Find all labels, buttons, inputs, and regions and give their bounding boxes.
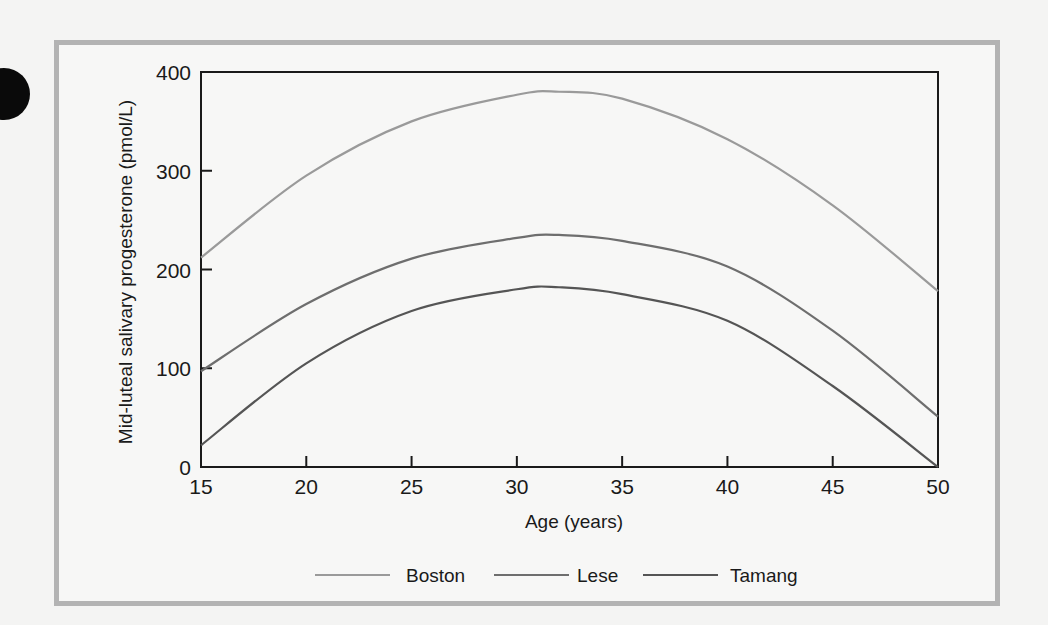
x-tick-label: 45 (821, 475, 844, 498)
series-line-boston (201, 91, 938, 291)
series-line-tamang (201, 286, 938, 467)
x-tick-label: 20 (295, 475, 318, 498)
x-axis: 1520253035404550 (189, 456, 949, 498)
series-lines (201, 91, 938, 467)
legend-label-lese: Lese (577, 565, 618, 586)
y-axis-title: Mid-luteal salivary progesterone (pmol/L… (115, 100, 136, 444)
legend-label-boston: Boston (406, 565, 465, 586)
x-tick-label: 35 (610, 475, 633, 498)
y-tick-label: 400 (156, 61, 191, 84)
y-axis: 0100200300400 (156, 61, 212, 479)
y-tick-label: 300 (156, 160, 191, 183)
x-axis-title: Age (years) (525, 511, 623, 532)
y-tick-label: 200 (156, 259, 191, 282)
legend-label-tamang: Tamang (730, 565, 798, 586)
plot-area (201, 72, 938, 467)
x-tick-label: 50 (926, 475, 949, 498)
legend: Boston Lese Tamang (315, 565, 798, 586)
x-tick-label: 30 (505, 475, 528, 498)
y-tick-label: 100 (156, 357, 191, 380)
x-tick-label: 40 (716, 475, 739, 498)
series-line-lese (201, 235, 938, 417)
x-tick-label: 15 (189, 475, 212, 498)
x-tick-label: 25 (400, 475, 423, 498)
line-chart: 0100200300400 1520253035404550 Age (year… (0, 0, 1048, 625)
